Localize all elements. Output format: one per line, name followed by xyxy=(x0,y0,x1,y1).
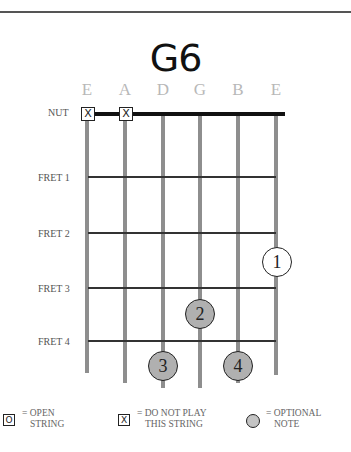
string-d xyxy=(161,114,165,388)
fret-label-2: FRET 2 xyxy=(38,228,70,239)
open-string-icon: O xyxy=(3,414,15,426)
legend-optional-line-1: = OPTIONAL xyxy=(266,408,321,419)
string-label-b: B xyxy=(223,80,253,100)
fret-line-4 xyxy=(88,340,276,342)
finger-1: 1 xyxy=(262,247,292,277)
mute-marker-a: X xyxy=(119,107,133,121)
legend-open-line-1: = OPEN xyxy=(22,408,64,419)
legend-optional-line-2: NOTE xyxy=(266,419,321,430)
fret-line-3 xyxy=(88,287,276,289)
nut-label: NUT xyxy=(48,107,69,118)
do-not-play-icon: X xyxy=(118,414,130,426)
fret-label-3: FRET 3 xyxy=(38,283,70,294)
legend-open-string: = OPEN STRING xyxy=(22,408,64,430)
top-divider xyxy=(0,11,351,13)
string-high-e xyxy=(274,114,278,375)
string-label-high-e: E xyxy=(261,80,291,100)
fret-label-4: FRET 4 xyxy=(38,336,70,347)
string-label-low-e: E xyxy=(72,80,102,100)
finger-2: 2 xyxy=(185,299,215,329)
string-a xyxy=(123,114,127,383)
legend-mute-line-1: = DO NOT PLAY xyxy=(137,408,207,419)
fret-label-1: FRET 1 xyxy=(38,172,70,183)
nut xyxy=(86,112,285,116)
legend-optional-note: = OPTIONAL NOTE xyxy=(266,408,321,430)
fret-line-2 xyxy=(88,232,276,234)
string-b xyxy=(236,114,240,383)
string-label-g: G xyxy=(185,80,215,100)
fret-line-1 xyxy=(88,176,276,178)
string-label-a: A xyxy=(110,80,140,100)
finger-3: 3 xyxy=(148,351,178,381)
string-g xyxy=(198,114,202,388)
string-label-d: D xyxy=(148,80,178,100)
finger-4: 4 xyxy=(223,351,253,381)
legend-mute-line-2: THIS STRING xyxy=(137,419,207,430)
chord-title: G6 xyxy=(0,36,351,80)
optional-note-icon xyxy=(246,414,260,428)
mute-marker-low-e: X xyxy=(81,107,95,121)
string-low-e xyxy=(85,114,89,373)
legend-do-not-play: = DO NOT PLAY THIS STRING xyxy=(137,408,207,430)
legend-open-line-2: STRING xyxy=(22,419,64,430)
